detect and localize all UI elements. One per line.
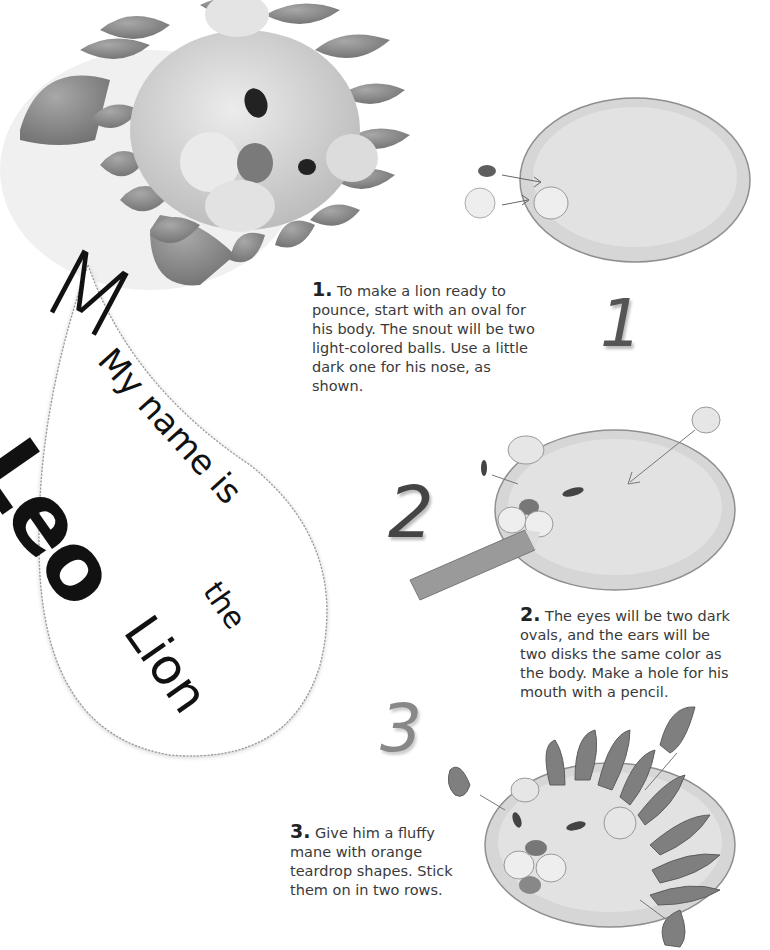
step3-text: Give him a fluffy mane with orange teard… — [290, 825, 453, 898]
step3-numeral: 3 — [380, 690, 422, 767]
step3-instruction: 3. Give him a fluffy mane with orange te… — [290, 822, 465, 900]
step2-text: The eyes will be two dark ovals, and the… — [520, 608, 730, 700]
step3-number: 3. — [290, 820, 310, 842]
step2-instruction: 2. The eyes will be two dark ovals, and … — [520, 605, 740, 702]
step1-instruction: 1. To make a lion ready to pounce, start… — [312, 280, 542, 396]
step1-number: 1. — [312, 278, 332, 300]
step1-illustration — [460, 95, 750, 285]
nose-ball-icon — [478, 165, 496, 177]
step2-number: 2. — [520, 603, 540, 625]
step3-illustration — [440, 705, 760, 950]
step2-illustration — [400, 400, 740, 600]
craft-page: M My name is Leo the Lion 1. To make a l… — [0, 0, 770, 950]
step2-numeral: 2 — [388, 470, 434, 554]
step1-numeral: 1 — [600, 285, 642, 362]
step1-text: To make a lion ready to pounce, start wi… — [312, 283, 535, 394]
